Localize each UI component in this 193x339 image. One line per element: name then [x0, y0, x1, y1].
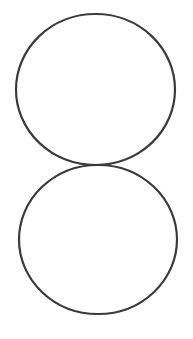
bottom-circle	[19, 165, 177, 314]
top-circle	[16, 14, 175, 165]
drawing-canvas	[0, 0, 193, 339]
